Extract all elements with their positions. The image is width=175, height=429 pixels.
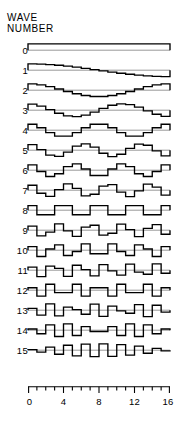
wave-number-figure: WAVE NUMBER 0123456789101112131415 04812… [0,0,175,429]
wave-number-label: 13 [0,305,28,316]
wave-plot [28,120,170,140]
x-axis-tick-label: 4 [61,396,67,407]
wave-plot [28,280,170,300]
wave-row: 0 [0,40,175,60]
wave-number-label: 8 [0,205,28,216]
wave-row: 13 [0,300,175,320]
x-axis-tick-label: 0 [27,396,33,407]
wave-number-label: 12 [0,285,28,296]
wave-number-label: 4 [0,125,28,136]
wave-row: 14 [0,320,175,340]
wave-plot [28,80,170,100]
x-axis-tick-label: 8 [96,396,102,407]
wave-number-label: 7 [0,185,28,196]
wave-number-label: 0 [0,45,28,56]
wave-plot [28,100,170,120]
wave-number-label: 3 [0,105,28,116]
figure-title: WAVE NUMBER [7,12,54,34]
x-axis-ticks [28,386,170,395]
wave-plot [28,180,170,200]
wave-number-label: 1 [0,65,28,76]
figure-title-line-1: WAVE [7,12,54,23]
wave-row: 5 [0,140,175,160]
wave-plot [28,200,170,220]
wave-number-label: 14 [0,325,28,336]
waveform-stack: 0123456789101112131415 [0,40,175,360]
x-axis-tick-label: 12 [129,396,140,407]
wave-row: 10 [0,240,175,260]
wave-plot [28,240,170,260]
wave-row: 12 [0,280,175,300]
x-axis: 0481216 [28,386,170,410]
wave-row: 1 [0,60,175,80]
wave-row: 4 [0,120,175,140]
wave-plot [28,300,170,320]
wave-row: 3 [0,100,175,120]
wave-number-label: 10 [0,245,28,256]
wave-number-label: 6 [0,165,28,176]
wave-row: 2 [0,80,175,100]
wave-plot [28,340,170,360]
wave-row: 11 [0,260,175,280]
wave-plot [28,260,170,280]
wave-number-label: 9 [0,225,28,236]
wave-plot [28,40,170,60]
wave-row: 6 [0,160,175,180]
wave-number-label: 15 [0,345,28,356]
x-axis-tick-label: 16 [162,396,173,407]
wave-plot [28,60,170,80]
wave-trace [28,44,170,50]
wave-plot [28,140,170,160]
wave-number-label: 2 [0,85,28,96]
wave-plot [28,220,170,240]
wave-number-label: 5 [0,145,28,156]
wave-trace [28,104,170,117]
wave-plot [28,160,170,180]
wave-row: 7 [0,180,175,200]
wave-plot [28,320,170,340]
wave-row: 9 [0,220,175,240]
wave-row: 8 [0,200,175,220]
wave-row: 15 [0,340,175,360]
wave-number-label: 11 [0,265,28,276]
x-axis-labels: 0481216 [28,396,170,410]
figure-title-line-2: NUMBER [7,23,54,34]
